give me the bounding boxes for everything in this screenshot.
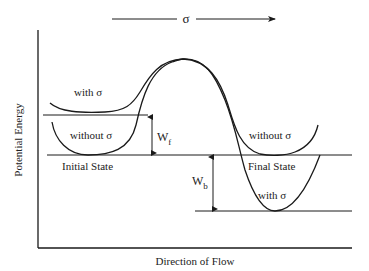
without-sigma-initial-label: without σ bbox=[70, 129, 112, 141]
final-state-label: Final State bbox=[248, 160, 295, 172]
sigma-label: σ bbox=[182, 11, 189, 26]
with-sigma-final-label: with σ bbox=[258, 189, 286, 201]
wb-arrow: Wb bbox=[192, 157, 213, 209]
y-axis-label: Potential Energy bbox=[12, 103, 24, 177]
wf-label: Wf bbox=[157, 130, 171, 147]
initial-state-label: Initial State bbox=[62, 160, 113, 172]
energy-diagram: σ Potential Energy Direction of Flow wit… bbox=[0, 0, 369, 271]
wb-label: Wb bbox=[192, 174, 208, 191]
x-axis-label: Direction of Flow bbox=[156, 255, 235, 267]
wf-arrow: Wf bbox=[152, 117, 171, 153]
stress-direction-arrow: σ bbox=[112, 11, 275, 26]
with-sigma-initial-label: with σ bbox=[74, 86, 102, 98]
without-sigma-final-label: without σ bbox=[249, 129, 291, 141]
